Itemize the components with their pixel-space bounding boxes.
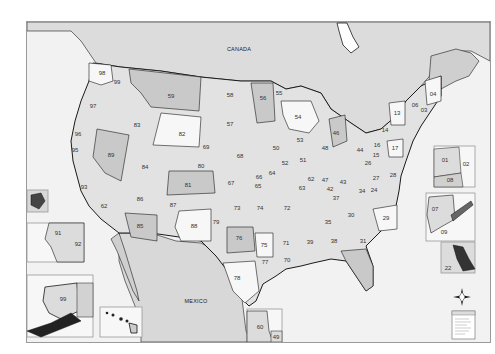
svg-text:99: 99	[60, 296, 67, 302]
svg-text:93: 93	[81, 184, 88, 190]
svg-text:44: 44	[357, 147, 364, 153]
svg-text:27: 27	[373, 175, 380, 181]
svg-text:87: 87	[170, 202, 177, 208]
inset-new-england[interactable]: 01 02 08	[434, 146, 475, 187]
inset-san-francisco-bay[interactable]	[27, 190, 48, 212]
svg-text:78: 78	[234, 275, 241, 281]
svg-text:55: 55	[276, 90, 283, 96]
svg-text:85: 85	[137, 223, 144, 229]
svg-text:43: 43	[340, 179, 347, 185]
region-32-florida[interactable]	[341, 249, 373, 291]
svg-text:39: 39	[307, 239, 314, 245]
svg-text:13: 13	[394, 110, 401, 116]
svg-text:72: 72	[284, 205, 291, 211]
region-82[interactable]	[153, 113, 201, 147]
svg-text:54: 54	[295, 114, 302, 120]
svg-text:74: 74	[257, 205, 264, 211]
svg-text:28: 28	[390, 172, 397, 178]
svg-text:14: 14	[382, 127, 389, 133]
svg-text:06: 06	[412, 102, 419, 108]
svg-text:89: 89	[108, 152, 115, 158]
svg-text:26: 26	[365, 160, 372, 166]
inset-hawaii[interactable]	[100, 307, 142, 337]
svg-text:34: 34	[359, 188, 366, 194]
svg-text:03: 03	[421, 107, 428, 113]
svg-text:16: 16	[374, 142, 381, 148]
svg-text:71: 71	[283, 240, 290, 246]
svg-text:52: 52	[282, 160, 289, 166]
svg-text:22: 22	[445, 265, 452, 271]
svg-text:35: 35	[325, 219, 332, 225]
svg-text:69: 69	[203, 144, 210, 150]
inset-alaska[interactable]: 99	[27, 275, 93, 337]
svg-text:31: 31	[360, 238, 367, 244]
svg-text:48: 48	[322, 145, 329, 151]
svg-text:62: 62	[101, 203, 108, 209]
svg-text:86: 86	[137, 196, 144, 202]
svg-text:60: 60	[257, 324, 264, 330]
svg-text:04: 04	[430, 91, 437, 97]
svg-text:47: 47	[322, 177, 329, 183]
svg-text:66: 66	[256, 174, 263, 180]
svg-text:99: 99	[114, 79, 121, 85]
svg-text:77: 77	[262, 259, 269, 265]
svg-text:15: 15	[373, 152, 380, 158]
svg-text:02: 02	[463, 161, 470, 167]
svg-text:50: 50	[273, 145, 280, 151]
svg-text:76: 76	[236, 235, 243, 241]
svg-text:49: 49	[273, 334, 280, 340]
svg-text:80: 80	[198, 163, 205, 169]
svg-text:84: 84	[142, 164, 149, 170]
map-canvas: 98 99 97 59 58 57 56 55 54 83 82 96 95 8…	[27, 22, 490, 342]
map-frame: 98 99 97 59 58 57 56 55 54 83 82 96 95 8…	[26, 21, 491, 343]
svg-text:96: 96	[75, 131, 82, 137]
inset-south-florida[interactable]: 60 49	[247, 309, 282, 342]
svg-text:29: 29	[383, 215, 390, 221]
inset-southern-california[interactable]: 91 92	[27, 223, 84, 262]
svg-text:30: 30	[348, 212, 355, 218]
svg-text:08: 08	[447, 177, 454, 183]
svg-text:07: 07	[432, 206, 439, 212]
canada-label: CANADA	[227, 46, 251, 52]
svg-text:64: 64	[269, 170, 276, 176]
svg-text:53: 53	[297, 137, 304, 143]
svg-text:58: 58	[227, 92, 234, 98]
mexico-label: MEXICO	[185, 298, 208, 304]
svg-text:59: 59	[168, 93, 175, 99]
svg-text:81: 81	[185, 182, 192, 188]
svg-text:68: 68	[237, 153, 244, 159]
svg-text:56: 56	[260, 95, 267, 101]
svg-text:17: 17	[392, 145, 399, 151]
svg-text:42: 42	[327, 186, 334, 192]
svg-text:95: 95	[72, 147, 79, 153]
svg-text:92: 92	[75, 241, 82, 247]
svg-text:75: 75	[261, 242, 268, 248]
svg-text:98: 98	[99, 70, 106, 76]
svg-text:65: 65	[255, 183, 262, 189]
svg-text:09: 09	[441, 229, 448, 235]
svg-text:70: 70	[284, 257, 291, 263]
svg-text:83: 83	[134, 122, 141, 128]
svg-text:88: 88	[191, 223, 198, 229]
svg-text:38: 38	[331, 238, 338, 244]
svg-text:46: 46	[333, 130, 340, 136]
compass-rose-icon	[453, 288, 471, 306]
inset-chesapeake[interactable]: 22	[441, 242, 475, 273]
svg-text:51: 51	[300, 157, 307, 163]
svg-text:67: 67	[228, 180, 235, 186]
inset-mid-atlantic[interactable]: 07 09	[426, 193, 475, 241]
svg-text:24: 24	[371, 187, 378, 193]
map-legend	[452, 311, 475, 339]
svg-text:91: 91	[55, 230, 62, 236]
svg-text:73: 73	[234, 205, 241, 211]
svg-text:63: 63	[299, 185, 306, 191]
svg-text:97: 97	[90, 103, 97, 109]
svg-text:01: 01	[442, 157, 449, 163]
svg-text:37: 37	[333, 195, 340, 201]
svg-text:57: 57	[227, 121, 234, 127]
svg-text:82: 82	[179, 131, 186, 137]
svg-text:79: 79	[213, 219, 220, 225]
svg-text:62: 62	[308, 176, 315, 182]
